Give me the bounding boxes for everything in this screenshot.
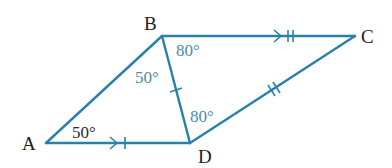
edge-cd — [190, 36, 355, 143]
edge-ab — [46, 36, 162, 143]
angle-label-a: 50° — [72, 123, 96, 142]
angle-labels: 50° 50° 80° 80° — [72, 41, 214, 142]
vertex-label-b: B — [144, 13, 157, 34]
vertex-label-a: A — [22, 133, 36, 154]
vertex-label-c: C — [361, 26, 374, 47]
geometry-diagram: A B C D 50° 50° 80° 80° — [0, 0, 392, 168]
angle-label-abd: 50° — [135, 68, 159, 87]
angle-label-bdc: 80° — [190, 107, 214, 126]
vertex-label-d: D — [198, 146, 212, 167]
angle-label-dbc: 80° — [176, 41, 200, 60]
